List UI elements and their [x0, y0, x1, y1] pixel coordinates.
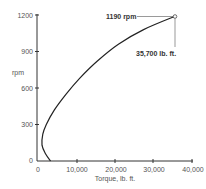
x-tick-30000: 30,000 — [143, 166, 165, 173]
torque-rpm-chart: 1200 900 600 300 0 rpm 0 10,000 20,000 3… — [0, 0, 206, 189]
y-tick-300: 300 — [21, 121, 33, 128]
x-tick-10000: 10,000 — [66, 166, 88, 173]
y-tick-1200: 1200 — [17, 12, 33, 19]
rpm-annotation: 1190 rpm — [106, 13, 136, 21]
y-tick-600: 600 — [21, 85, 33, 92]
y-tick-0: 0 — [29, 157, 33, 164]
end-point-marker — [173, 15, 177, 19]
x-tick-20000: 20,000 — [105, 166, 127, 173]
y-axis-label: rpm — [12, 69, 24, 77]
x-axis-label: Torque, lb. ft. — [95, 175, 136, 183]
torque-annotation: 35,700 lb. ft. — [136, 50, 176, 58]
y-tick-900: 900 — [21, 48, 33, 55]
x-tick-0: 0 — [36, 166, 40, 173]
x-tick-40000: 40,000 — [182, 166, 204, 173]
torque-rpm-curve — [42, 16, 175, 161]
